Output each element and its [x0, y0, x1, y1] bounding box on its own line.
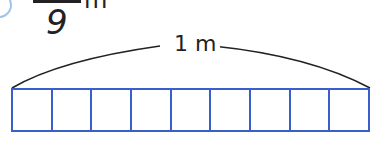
bar-cell — [251, 90, 291, 130]
bar-cell — [13, 90, 53, 130]
bar-cell — [291, 90, 331, 130]
bar-cell — [132, 90, 172, 130]
bar-cell — [92, 90, 132, 130]
bar-cell — [211, 90, 251, 130]
bar-cell — [53, 90, 93, 130]
brace-label: 1 m — [170, 32, 220, 56]
measure-bar — [11, 88, 370, 132]
fraction-diagram: 9 m 1 m — [0, 0, 373, 148]
bar-cell — [172, 90, 212, 130]
bar-cell — [330, 90, 368, 130]
